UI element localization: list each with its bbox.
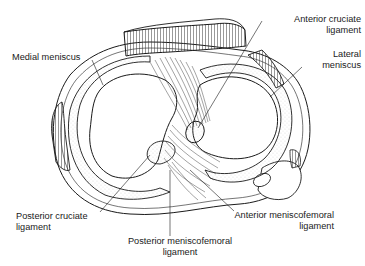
label-posterior-cruciate-ligament: Posterior cruciate ligament bbox=[16, 211, 88, 232]
label-medial-meniscus: Medial meniscus bbox=[12, 52, 80, 63]
label-lateral-meniscus: Lateral meniscus bbox=[322, 49, 361, 70]
label-anterior-meniscofemoral-ligament: Anterior meniscofemoral ligament bbox=[234, 210, 334, 231]
anterior-tendon-block bbox=[124, 19, 246, 56]
medial-tendon-block bbox=[52, 102, 70, 171]
knee-meniscus-diagram: Medial meniscus Anterior cruciate ligame… bbox=[0, 0, 365, 266]
label-posterior-meniscofemoral-ligament: Posterior meniscofemoral ligament bbox=[110, 236, 250, 257]
posterior-cruciate-attachment bbox=[147, 141, 175, 164]
lateral-condyle bbox=[193, 77, 278, 159]
label-anterior-cruciate-ligament: Anterior cruciate ligament bbox=[294, 14, 361, 35]
